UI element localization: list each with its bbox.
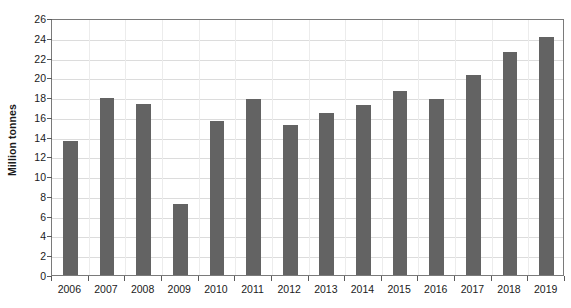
vertical-gridline — [199, 20, 200, 275]
gridline — [52, 158, 563, 159]
x-axis-tick-label: 2017 — [461, 283, 484, 295]
y-axis-tick-mark — [47, 98, 52, 99]
x-axis-tick-mark — [454, 276, 455, 281]
vertical-gridline — [528, 20, 529, 275]
y-axis-tick-label: 16 — [6, 112, 46, 124]
gridline — [52, 60, 563, 61]
x-axis-tick-mark — [344, 276, 345, 281]
y-axis-tick-label: 2 — [6, 250, 46, 262]
x-axis-tick-mark — [417, 276, 418, 281]
gridline — [52, 79, 563, 80]
x-axis-tick-label: 2006 — [58, 283, 81, 295]
y-axis-tick-mark — [47, 59, 52, 60]
y-axis-tick-mark — [47, 157, 52, 158]
gridline — [52, 178, 563, 179]
x-axis-tick-label: 2015 — [387, 283, 410, 295]
vertical-gridline — [235, 20, 236, 275]
gridline — [52, 218, 563, 219]
y-axis-tick-mark — [47, 118, 52, 119]
x-axis-tick-mark — [308, 276, 309, 281]
y-axis-tick-label: 6 — [6, 211, 46, 223]
y-axis-tick-label: 4 — [6, 230, 46, 242]
bar — [393, 91, 408, 275]
vertical-gridline — [492, 20, 493, 275]
x-axis-tick-mark — [198, 276, 199, 281]
bar-chart: Million tonnes 02468101214161820222426 2… — [0, 0, 571, 308]
y-axis-tick-mark — [47, 78, 52, 79]
bar — [503, 52, 518, 275]
x-axis-tick-label: 2016 — [424, 283, 447, 295]
x-axis-tick-mark — [527, 276, 528, 281]
y-axis-tick-mark — [47, 197, 52, 198]
gridline — [52, 99, 563, 100]
y-axis-tick-label: 12 — [6, 151, 46, 163]
y-axis-tick-label: 26 — [6, 13, 46, 25]
vertical-gridline — [418, 20, 419, 275]
x-axis-tick-label: 2011 — [241, 283, 264, 295]
gridline — [52, 40, 563, 41]
y-axis-tick-label: 18 — [6, 92, 46, 104]
bar — [429, 99, 444, 275]
x-axis-tick-label: 2008 — [131, 283, 154, 295]
x-axis-tick-label: 2014 — [351, 283, 374, 295]
y-axis-tick-label: 10 — [6, 171, 46, 183]
y-axis-tick-mark — [47, 138, 52, 139]
x-axis-tick-label: 2013 — [314, 283, 337, 295]
vertical-gridline — [382, 20, 383, 275]
bar — [210, 121, 225, 275]
y-axis-tick-mark — [47, 177, 52, 178]
bar — [173, 204, 188, 275]
x-axis-tick-label: 2019 — [534, 283, 557, 295]
vertical-gridline — [89, 20, 90, 275]
bar — [319, 113, 334, 275]
gridline — [52, 119, 563, 120]
bar — [136, 104, 151, 275]
x-axis-tick-label: 2009 — [168, 283, 191, 295]
vertical-gridline — [455, 20, 456, 275]
x-axis-tick-mark — [88, 276, 89, 281]
x-axis-tick-label: 2007 — [94, 283, 117, 295]
x-axis-tick-mark — [564, 276, 565, 281]
y-axis-tick-label: 22 — [6, 53, 46, 65]
bar — [539, 37, 554, 275]
x-axis-tick-mark — [234, 276, 235, 281]
vertical-gridline — [162, 20, 163, 275]
bar — [283, 125, 298, 275]
x-axis-tick-label: 2018 — [497, 283, 520, 295]
x-axis-tick-mark — [271, 276, 272, 281]
y-axis-tick-mark — [47, 19, 52, 20]
y-axis-tick-mark — [47, 39, 52, 40]
bar — [63, 141, 78, 275]
x-axis-tick-mark — [491, 276, 492, 281]
gridline — [52, 237, 563, 238]
bar — [356, 105, 371, 275]
y-axis-tick-label: 8 — [6, 191, 46, 203]
vertical-gridline — [125, 20, 126, 275]
x-axis-tick-label: 2010 — [204, 283, 227, 295]
y-axis-tick-label: 14 — [6, 132, 46, 144]
y-axis-tick-label: 24 — [6, 33, 46, 45]
y-axis-tick-label: 20 — [6, 72, 46, 84]
vertical-gridline — [309, 20, 310, 275]
y-axis-tick-mark — [47, 217, 52, 218]
gridline — [52, 139, 563, 140]
x-axis-tick-mark — [161, 276, 162, 281]
gridline — [52, 198, 563, 199]
x-axis-tick-mark — [381, 276, 382, 281]
bar — [246, 99, 261, 275]
bar — [100, 98, 115, 275]
gridline — [52, 257, 563, 258]
y-axis-tick-mark — [47, 236, 52, 237]
vertical-gridline — [272, 20, 273, 275]
y-axis-tick-label: 0 — [6, 270, 46, 282]
x-axis-tick-mark — [124, 276, 125, 281]
vertical-gridline — [345, 20, 346, 275]
x-axis-tick-mark — [51, 276, 52, 281]
plot-area — [51, 19, 564, 276]
bar — [466, 75, 481, 275]
y-axis-tick-mark — [47, 256, 52, 257]
x-axis-tick-label: 2012 — [277, 283, 300, 295]
